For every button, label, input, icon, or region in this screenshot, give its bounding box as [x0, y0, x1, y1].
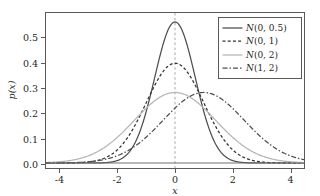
legend-item[interactable]: N(1, 2) [222, 62, 297, 76]
x-tick-label: -2 [113, 174, 122, 185]
legend-item[interactable]: N(0, 0.5) [222, 21, 297, 35]
y-tick-label: 0.3 [23, 82, 38, 93]
x-tick-mark [59, 169, 60, 173]
legend-label: N(0, 2) [246, 50, 278, 60]
y-tick-label: 0.0 [23, 158, 38, 169]
x-axis-label: x [172, 185, 177, 196]
legend-label: N(1, 2) [246, 63, 278, 73]
legend-label: N(0, 1) [246, 36, 278, 46]
legend-line-sample [222, 36, 243, 46]
legend-label: N(0, 0.5) [246, 23, 287, 33]
legend-line-sample [222, 50, 243, 60]
x-tick-label: -4 [55, 174, 64, 185]
normal-distribution-chart: p(x) x -4-20240.00.10.20.30.40.5 N(0, 0.… [0, 0, 320, 196]
y-tick-label: 0.4 [23, 57, 38, 68]
x-tick-mark [175, 169, 176, 173]
x-tick-label: 2 [230, 174, 236, 185]
y-tick-label: 0.5 [23, 32, 38, 43]
y-tick-label: 0.2 [23, 108, 38, 119]
legend-item[interactable]: N(0, 2) [222, 48, 297, 62]
x-tick-label: 0 [172, 174, 178, 185]
legend-line-sample [222, 23, 243, 33]
x-tick-mark [291, 169, 292, 173]
legend: N(0, 0.5)N(0, 1)N(0, 2)N(1, 2) [218, 17, 302, 79]
legend-line-sample [222, 63, 243, 73]
x-tick-label: 4 [288, 174, 294, 185]
x-tick-mark [117, 169, 118, 173]
y-tick-label: 0.1 [23, 133, 38, 144]
x-tick-mark [233, 169, 234, 173]
legend-item[interactable]: N(0, 1) [222, 35, 297, 49]
y-axis-label: p(x) [6, 81, 17, 100]
